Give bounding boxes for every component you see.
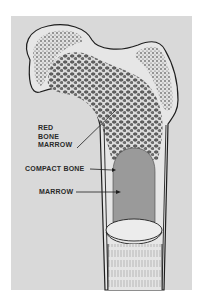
label-line: MARROW <box>38 141 72 150</box>
lower-shaft <box>108 244 162 290</box>
label-line: BONE <box>38 133 72 142</box>
marrow-cavity <box>113 148 155 222</box>
label-red-bone-marrow: RED BONE MARROW <box>38 124 72 150</box>
cut-surface <box>106 219 162 241</box>
label-line: RED <box>38 124 72 133</box>
label-marrow: MARROW <box>39 188 73 197</box>
label-compact-bone: COMPACT BONE <box>25 165 84 174</box>
femur-illustration <box>0 0 204 303</box>
